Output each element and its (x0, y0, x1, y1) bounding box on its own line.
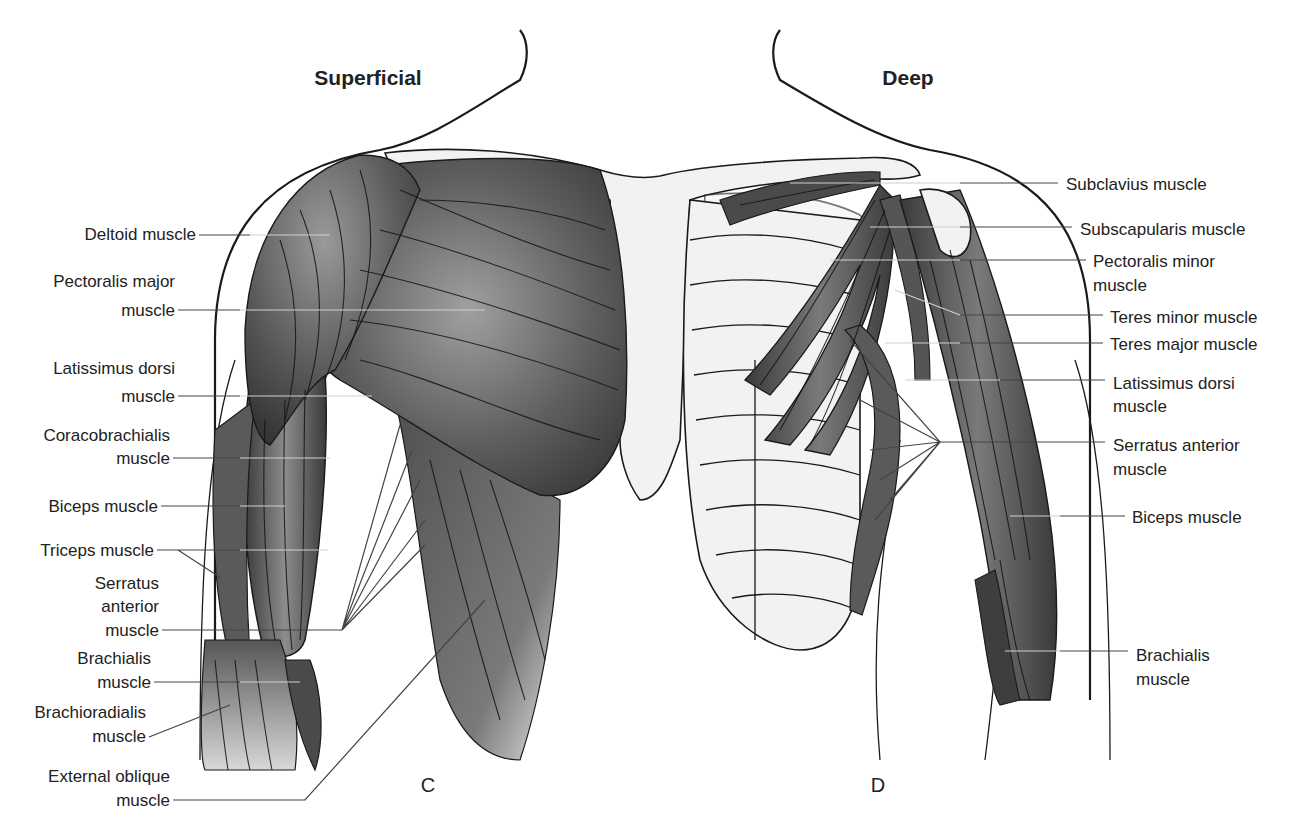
svg-text:Triceps muscle: Triceps muscle (40, 541, 154, 560)
svg-text:Pectoralis major: Pectoralis major (53, 272, 175, 291)
svg-text:muscle: muscle (121, 301, 175, 320)
svg-text:muscle: muscle (97, 673, 151, 692)
deep-arm-shape (900, 190, 1057, 700)
svg-text:Serratus: Serratus (95, 574, 159, 593)
svg-text:muscle: muscle (116, 791, 170, 810)
forearm-shape (201, 640, 297, 770)
svg-text:Brachialis: Brachialis (1136, 646, 1210, 665)
title-deep: Deep (882, 66, 933, 89)
title-superficial: Superficial (314, 66, 421, 89)
svg-text:muscle: muscle (116, 449, 170, 468)
svg-text:Latissimus dorsi: Latissimus dorsi (1113, 374, 1235, 393)
svg-text:Biceps muscle: Biceps muscle (48, 497, 158, 516)
svg-text:muscle: muscle (121, 387, 175, 406)
svg-text:Deltoid muscle: Deltoid muscle (85, 225, 197, 244)
svg-text:Serratus anterior: Serratus anterior (1113, 436, 1240, 455)
svg-text:Teres minor muscle: Teres minor muscle (1110, 308, 1257, 327)
svg-text:Pectoralis minor: Pectoralis minor (1093, 252, 1215, 271)
svg-text:Teres major muscle: Teres major muscle (1110, 335, 1257, 354)
anatomy-figure: Superficial Deep C D Deltoid muscle Pect… (0, 0, 1311, 826)
svg-text:muscle: muscle (1113, 460, 1167, 479)
svg-text:muscle: muscle (1093, 276, 1147, 295)
svg-text:Subclavius muscle: Subclavius muscle (1066, 175, 1207, 194)
svg-text:External oblique: External oblique (48, 767, 170, 786)
svg-text:Biceps muscle: Biceps muscle (1132, 508, 1242, 527)
svg-text:muscle: muscle (1136, 670, 1190, 689)
svg-text:Coracobrachialis: Coracobrachialis (43, 426, 170, 445)
svg-text:Brachialis: Brachialis (77, 649, 151, 668)
svg-text:Subscapularis muscle: Subscapularis muscle (1080, 220, 1245, 239)
svg-text:anterior: anterior (101, 597, 159, 616)
superficial-muscles (201, 155, 626, 770)
svg-text:muscle: muscle (92, 727, 146, 746)
svg-text:Latissimus dorsi: Latissimus dorsi (53, 359, 175, 378)
panel-letter-d: D (871, 774, 885, 796)
svg-text:muscle: muscle (1113, 397, 1167, 416)
svg-text:Brachioradialis: Brachioradialis (35, 703, 147, 722)
svg-text:muscle: muscle (105, 621, 159, 640)
panel-letter-c: C (421, 774, 435, 796)
